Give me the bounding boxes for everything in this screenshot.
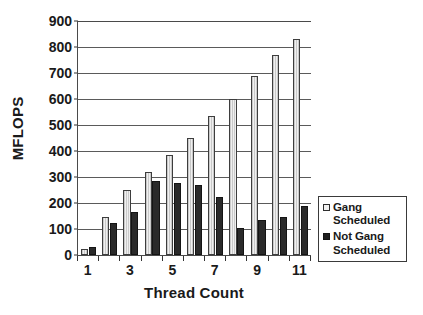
x-axis-tick-mark (77, 256, 78, 261)
x-axis-tick-labels: 1357911 (77, 263, 311, 283)
x-axis-tick-mark (119, 256, 120, 261)
bar (280, 217, 287, 255)
plot-area (77, 21, 311, 256)
bar-group (293, 21, 308, 255)
light-square-icon (323, 204, 330, 211)
x-axis-tick-mark (162, 256, 163, 261)
bar-group (81, 21, 96, 255)
bar (131, 212, 138, 255)
x-axis-tick-label: 5 (155, 263, 189, 278)
x-axis-tick-label: 1 (71, 263, 105, 278)
bar-group (208, 21, 223, 255)
bar (174, 183, 181, 255)
x-axis-tick-marks (77, 256, 311, 262)
bar-group (123, 21, 138, 255)
bar (166, 155, 173, 255)
bar (123, 190, 130, 255)
legend-item-not-gang-scheduled: Not GangScheduled (323, 230, 403, 256)
bars-layer (78, 21, 311, 255)
y-axis-title: MFLOPS (9, 79, 26, 179)
bar (229, 99, 236, 255)
bar-group (187, 21, 202, 255)
bar-group (166, 21, 181, 255)
y-axis-tick-label: 300 (42, 170, 72, 184)
chart-legend: GangScheduled Not GangScheduled (318, 196, 407, 262)
bar (208, 116, 215, 255)
bar (110, 223, 117, 256)
y-axis-tick-label: 600 (42, 92, 72, 106)
legend-item-label: GangScheduled (333, 201, 390, 227)
y-axis-tick-label: 100 (42, 222, 72, 236)
y-axis-tick-labels: 0100200300400500600700800900 (42, 21, 72, 255)
bar-chart: MFLOPS 0100200300400500600700800900 1357… (0, 0, 423, 315)
bar-group (145, 21, 160, 255)
x-axis-tick-label: 11 (282, 263, 316, 278)
bar-group (251, 21, 266, 255)
x-axis-tick-mark (183, 256, 184, 261)
bar (152, 181, 159, 255)
x-axis-tick-label: 9 (240, 263, 274, 278)
bar-group (102, 21, 117, 255)
bar (301, 206, 308, 255)
bar-group (229, 21, 244, 255)
bar (145, 172, 152, 255)
y-axis-tick-label: 500 (42, 118, 72, 132)
bar (258, 220, 265, 255)
y-axis-tick-label: 0 (42, 248, 72, 262)
bar (251, 76, 258, 255)
x-axis-tick-mark (204, 256, 205, 261)
y-axis-tick-label: 200 (42, 196, 72, 210)
bar (237, 228, 244, 255)
bar (187, 138, 194, 255)
bar (272, 55, 279, 255)
x-axis-tick-mark (268, 256, 269, 261)
y-axis-tick-label: 700 (42, 66, 72, 80)
bar (195, 185, 202, 255)
x-axis-tick-mark (246, 256, 247, 261)
legend-item-gang-scheduled: GangScheduled (323, 201, 403, 227)
x-axis-tick-mark (98, 256, 99, 261)
y-axis-tick-label: 800 (42, 40, 72, 54)
x-axis-tick-label: 3 (113, 263, 147, 278)
bar (293, 39, 300, 255)
bar (216, 197, 223, 255)
dark-square-icon (323, 233, 330, 240)
x-axis-tick-mark (310, 256, 311, 261)
bar (81, 249, 88, 256)
x-axis-tick-mark (141, 256, 142, 261)
x-axis-tick-label: 7 (198, 263, 232, 278)
bar-group (272, 21, 287, 255)
bar (89, 247, 96, 255)
x-axis-tick-mark (289, 256, 290, 261)
y-axis-tick-label: 900 (42, 14, 72, 28)
x-axis-tick-mark (225, 256, 226, 261)
y-axis-tick-label: 400 (42, 144, 72, 158)
legend-item-label: Not GangScheduled (333, 230, 390, 256)
bar (102, 217, 109, 255)
x-axis-title: Thread Count (77, 284, 311, 301)
